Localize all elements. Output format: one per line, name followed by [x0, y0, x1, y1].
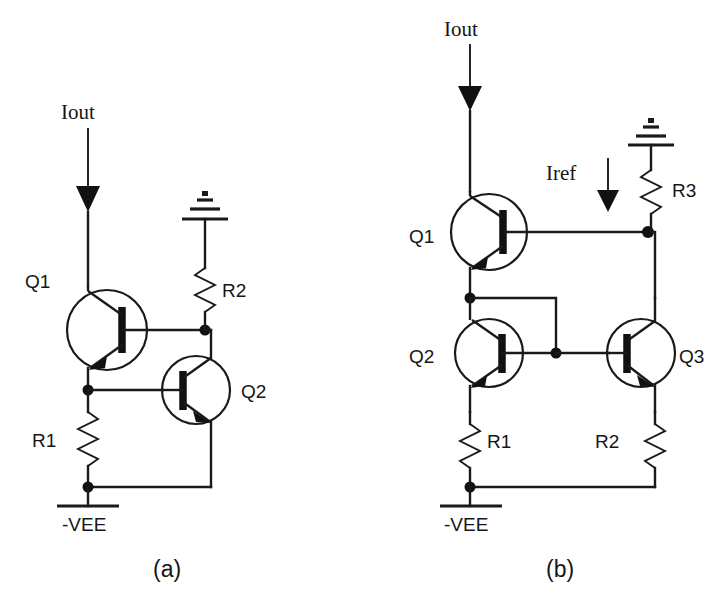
label-a-r1: R1 [32, 430, 56, 451]
label-b-r1: R1 [487, 431, 511, 452]
ground-symbol-b [628, 118, 674, 145]
caption-a: (a) [153, 556, 181, 582]
resistor-r2-a [195, 219, 215, 330]
circuit-b-group: Iout Iref Q1 Q2 Q3 R1 R2 R3 -VEE (b) [409, 17, 704, 582]
transistor-q3-b [607, 298, 675, 412]
resistor-r2-b [645, 412, 665, 487]
label-a-q1: Q1 [25, 271, 50, 292]
label-b-q2: Q2 [409, 346, 434, 367]
iout-arrow-b [458, 44, 482, 111]
label-a-vee: -VEE [62, 514, 106, 535]
transistor-q2-a [162, 330, 230, 487]
circuit-a-group: Iout Q1 Q2 R1 R2 -VEE (a) [25, 100, 266, 582]
transistor-q1-b [451, 191, 645, 298]
label-b-r3: R3 [672, 180, 696, 201]
label-b-iref: Iref [546, 161, 576, 185]
circuit-schematic-svg: Iout Q1 Q2 R1 R2 -VEE (a) [0, 0, 726, 603]
caption-b: (b) [546, 556, 574, 582]
label-b-iout: Iout [444, 17, 478, 41]
label-a-iout: Iout [61, 100, 95, 124]
resistor-r1-a [78, 390, 98, 487]
transistor-q2-b [455, 298, 556, 412]
label-a-q2: Q2 [241, 381, 266, 402]
label-b-vee: -VEE [444, 514, 488, 535]
label-b-q3: Q3 [679, 346, 704, 367]
iout-arrow-a [76, 128, 100, 212]
resistor-r1-b [460, 412, 480, 487]
ground-symbol-a [182, 191, 228, 219]
wire-b-crosscouple [470, 298, 556, 353]
label-b-q1: Q1 [409, 226, 434, 247]
label-b-r2: R2 [595, 431, 619, 452]
iref-arrow-b [597, 158, 619, 212]
figure-canvas: Iout Q1 Q2 R1 R2 -VEE (a) [0, 0, 726, 603]
resistor-r3-b [641, 145, 661, 232]
label-a-r2: R2 [222, 280, 246, 301]
